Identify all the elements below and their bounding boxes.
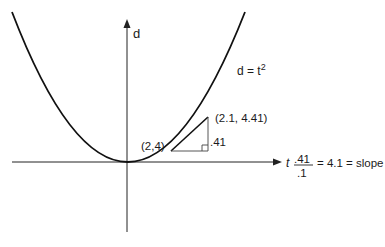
point-label-2.1-4.41: (2.1, 4.41) (215, 112, 268, 124)
t-axis-label: t (286, 156, 290, 170)
d-axis-arrow-icon (124, 19, 131, 28)
t-axis-arrow-icon (273, 159, 282, 166)
rise-label: .41 (210, 136, 226, 148)
curve-label: d = t2 (237, 62, 266, 78)
right-angle-marker (202, 145, 208, 151)
parabola-diagram: d d = t2 (2,4) (2.1, 4.41) .41 t .41 .1 … (0, 0, 385, 247)
slope-numerator: .41 (294, 153, 310, 165)
slope-text: = 4.1 = slope (317, 157, 384, 169)
slope-denominator: .1 (297, 167, 307, 179)
point-label-2-4: (2,4) (141, 140, 165, 152)
curve-label-exponent: 2 (261, 62, 266, 72)
d-axis-label: d (133, 26, 140, 41)
